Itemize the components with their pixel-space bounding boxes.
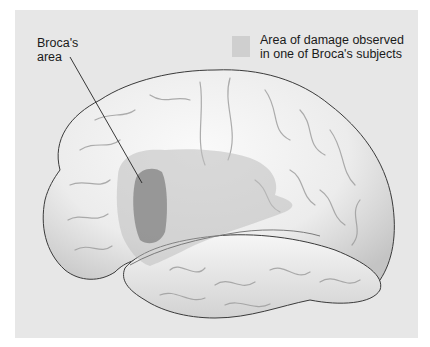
legend-line1: Area of damage observed xyxy=(260,33,404,47)
broca-area-label: Broca's area xyxy=(37,36,78,64)
legend: Area of damage observed in one of Broca'… xyxy=(232,33,404,61)
broca-label-line2: area xyxy=(37,50,78,64)
broca-area-region xyxy=(133,169,167,244)
broca-label-line1: Broca's xyxy=(37,36,78,50)
legend-text: Area of damage observed in one of Broca'… xyxy=(260,33,404,61)
legend-swatch xyxy=(232,36,250,57)
legend-line2: in one of Broca's subjects xyxy=(260,47,404,61)
